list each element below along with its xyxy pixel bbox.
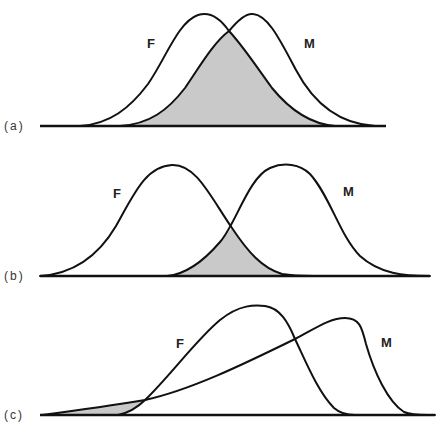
panel-b: (b) F M (4, 165, 430, 283)
female-label-a: F (147, 36, 155, 51)
male-curve-c (42, 318, 435, 415)
male-label-a: M (304, 36, 315, 51)
panel-label-a: (a) (4, 119, 25, 133)
panel-label-c: (c) (4, 408, 24, 422)
male-label-c: M (381, 335, 392, 350)
female-curve-b (40, 165, 313, 276)
panel-label-b: (b) (4, 269, 25, 283)
female-label-b: F (113, 186, 121, 201)
panel-c: (c) F M (4, 306, 435, 422)
male-label-b: M (343, 184, 354, 199)
panel-a: (a) F M (4, 14, 386, 133)
overlap-diagram: (a) F M (b) F M (c) F M (0, 0, 445, 427)
female-label-c: F (176, 336, 184, 351)
